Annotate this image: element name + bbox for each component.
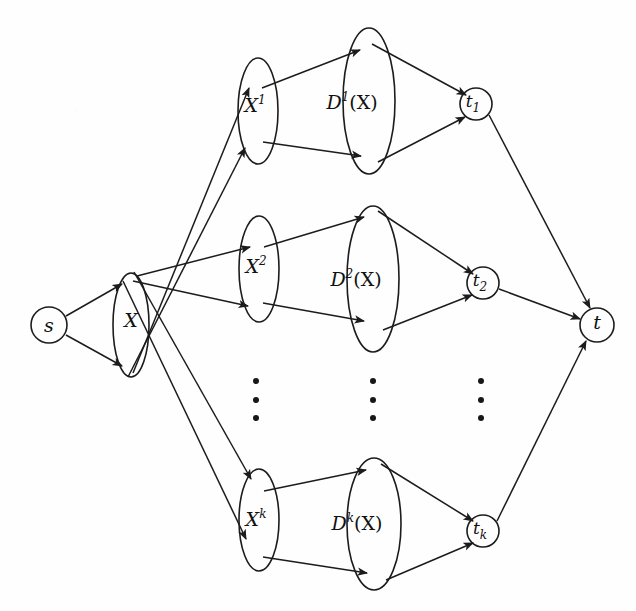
sink-t1-label: t1 [466, 91, 480, 115]
edge-t1-to-t [489, 115, 590, 308]
dist-dk-label: Dk(X) [331, 511, 383, 535]
edge-X1-to-D1-lower [263, 142, 361, 156]
edge-X-bottom-to-X1-lower [128, 148, 245, 377]
dist-d1-base: D [325, 91, 341, 113]
diagram-canvas: s X X1 D1(X) t1 [0, 0, 636, 611]
edge-X-top-to-X2-upper [137, 247, 250, 276]
node-dist-dk[interactable]: Dk(X) [331, 458, 401, 590]
edge-X-bottom-to-X1-upper [133, 88, 249, 373]
edge-D1-to-t1-upper [372, 44, 466, 95]
edge-X-top-to-Xk-lower [123, 281, 246, 539]
edge-group-sinks-to-terminal [489, 115, 590, 521]
node-terminal-t[interactable]: t [580, 308, 614, 342]
sink-tk-label: tk [473, 518, 487, 542]
dist-d2-base: D [329, 268, 345, 290]
dist-dk-sup: k [347, 511, 354, 525]
sink-t2-label: t2 [473, 270, 487, 294]
ellipsis-dot [253, 397, 259, 403]
node-copy-xk[interactable]: Xk [239, 469, 279, 571]
node-dist-d2[interactable]: D2(X) [329, 206, 399, 352]
edge-Dk-to-tk-upper [381, 464, 473, 521]
copy-column-ellipsis [253, 378, 259, 421]
dist-d1-sup: 1 [342, 90, 350, 104]
edge-X2-to-D2-upper [264, 217, 364, 247]
dist-dk-base: D [331, 512, 347, 534]
sink-column-ellipsis [478, 378, 484, 421]
node-copy-x2[interactable]: X2 [239, 216, 279, 322]
ellipsis-dot [253, 415, 259, 421]
edge-D2-to-t2-upper [378, 211, 473, 274]
ellipsis-dot [370, 415, 376, 421]
ellipsis-dot [478, 415, 484, 421]
sink-tk-sub: k [480, 528, 487, 542]
source-label: s [44, 314, 54, 336]
sink-t2-sub: 2 [479, 280, 488, 294]
set-x-label: X [122, 309, 139, 331]
copy-x1-base: X [242, 94, 259, 116]
ellipsis-dot [370, 397, 376, 403]
copy-x2-base: X [243, 255, 260, 277]
dist-d2-label: D2(X) [329, 267, 381, 291]
copy-xk-sup: k [259, 507, 266, 521]
copy-xk-label: Xk [244, 507, 267, 531]
node-source-s[interactable]: s [31, 307, 67, 343]
ellipsis-dot [253, 378, 259, 384]
edge-group-setx-to-copies [123, 88, 251, 539]
node-copy-x1[interactable]: X1 [238, 58, 278, 164]
edge-tk-to-t [497, 341, 586, 521]
terminal-label: t [593, 311, 601, 333]
sink-t1-sub: 1 [473, 101, 481, 115]
node-sink-t1[interactable]: t1 [460, 88, 492, 120]
network-flow-diagram: s X X1 D1(X) t1 [0, 0, 636, 611]
dist-d2-sup: 2 [345, 267, 354, 281]
copy-x2-sup: 2 [258, 254, 267, 268]
copy-xk-base: X [244, 508, 261, 530]
ellipsis-dot [478, 378, 484, 384]
dist-d1-arg: (X) [349, 91, 377, 113]
copy-x1-sup: 1 [258, 93, 266, 107]
dist-column-ellipsis [370, 378, 376, 421]
ellipsis-dot [370, 378, 376, 384]
edge-t2-to-t [499, 289, 580, 319]
dist-d2-arg: (X) [353, 268, 381, 290]
dist-dk-arg: (X) [354, 512, 382, 534]
node-sink-tk[interactable]: tk [467, 515, 499, 547]
copy-x1-label: X1 [242, 93, 265, 117]
node-sink-t2[interactable]: t2 [467, 267, 499, 299]
ellipsis-dot [478, 397, 484, 403]
dist-d1-label: D1(X) [325, 90, 377, 114]
copy-x2-label: X2 [243, 254, 266, 278]
